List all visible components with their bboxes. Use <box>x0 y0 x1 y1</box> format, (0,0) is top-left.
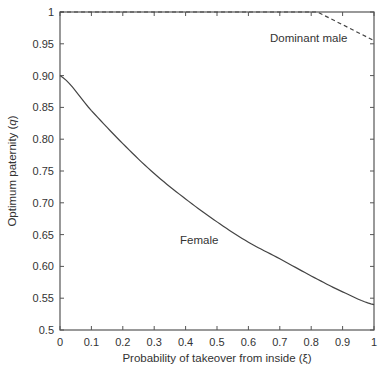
y-tick-label: 0.5 <box>39 324 54 336</box>
y-tick-label: 0.90 <box>33 70 54 82</box>
x-tick-label: 0.8 <box>304 336 319 348</box>
series-female <box>60 76 374 305</box>
y-tick-label: 1 <box>48 6 54 18</box>
x-axis-label: Probability of takeover from inside (ξ) <box>122 352 311 364</box>
y-tick-label: 0.60 <box>33 260 54 272</box>
y-tick-label: 0.95 <box>33 38 54 50</box>
x-tick-label: 0.9 <box>335 336 350 348</box>
x-tick-label: 1 <box>371 336 377 348</box>
plot-frame <box>60 12 374 330</box>
y-tick-label: 0.70 <box>33 197 54 209</box>
y-axis-ticks: 0.50.550.600.650.700.750.800.850.900.951 <box>33 6 374 336</box>
x-tick-label: 0.7 <box>272 336 287 348</box>
y-tick-label: 0.80 <box>33 133 54 145</box>
x-tick-label: 0.6 <box>241 336 256 348</box>
y-axis-label-prefix: Optimum paternity ( <box>6 125 18 226</box>
y-tick-label: 0.65 <box>33 229 54 241</box>
y-tick-label: 0.75 <box>33 165 54 177</box>
x-tick-label: 0.1 <box>84 336 99 348</box>
x-tick-label: 0.5 <box>209 336 224 348</box>
x-tick-label: 0 <box>57 336 63 348</box>
y-axis-label-suffix: ) <box>6 115 18 119</box>
chart: 00.10.20.30.40.50.60.70.80.91 0.50.550.6… <box>0 0 384 376</box>
plot-area-border <box>60 12 374 330</box>
x-tick-label: 0.2 <box>115 336 130 348</box>
annotation-dominant-male: Dominant male <box>270 32 347 44</box>
x-tick-label: 0.3 <box>147 336 162 348</box>
x-tick-label: 0.4 <box>178 336 193 348</box>
series-lines <box>60 12 374 305</box>
annotation-female: Female <box>180 234 218 246</box>
y-axis-label: Optimum paternity (q) <box>6 115 18 226</box>
y-tick-label: 0.85 <box>33 101 54 113</box>
x-axis-ticks: 00.10.20.30.40.50.60.70.80.91 <box>57 12 377 348</box>
y-tick-label: 0.55 <box>33 292 54 304</box>
